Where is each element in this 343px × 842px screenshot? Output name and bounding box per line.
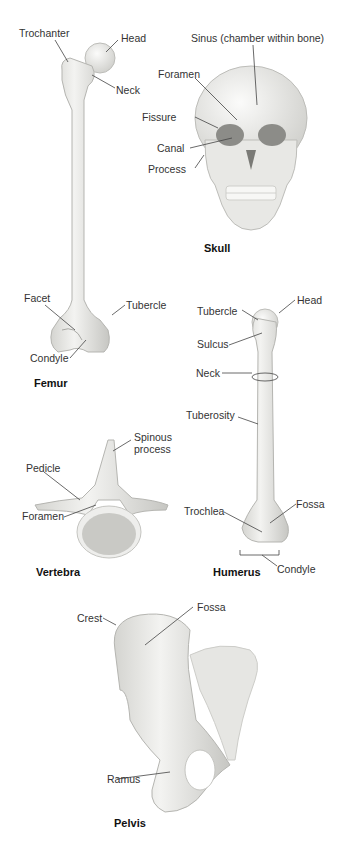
vertebra-label-spinous-line1: Spinous bbox=[134, 431, 172, 443]
vertebra-label-pedicle: Pedicle bbox=[26, 462, 60, 474]
skull-label-process: Process bbox=[148, 163, 186, 175]
femur-label-condyle: Condyle bbox=[30, 352, 69, 364]
skull-label-fissure: Fissure bbox=[142, 111, 176, 123]
vertebra-title: Vertebra bbox=[36, 566, 80, 578]
vertebra-label-spinous-line2: process bbox=[134, 443, 171, 455]
skull-title: Skull bbox=[204, 242, 230, 254]
humerus-label-tuberosity: Tuberosity bbox=[186, 409, 235, 421]
humerus-label-fossa: Fossa bbox=[296, 498, 325, 510]
humerus-label-sulcus: Sulcus bbox=[197, 338, 229, 350]
pelvis-label-ramus: Ramus bbox=[107, 773, 140, 785]
skull-label-foramen: Foramen bbox=[158, 68, 200, 80]
femur-label-neck: Neck bbox=[116, 84, 140, 96]
humerus-label-trochlea: Trochlea bbox=[184, 505, 224, 517]
skull-illustration bbox=[195, 66, 307, 230]
vertebra-label-spinous-process: Spinous process bbox=[134, 431, 172, 455]
humerus-label-neck: Neck bbox=[196, 367, 220, 379]
humerus-label-tubercle: Tubercle bbox=[197, 305, 237, 317]
pelvis-label-fossa: Fossa bbox=[197, 601, 226, 613]
vertebra-label-foramen: Foramen bbox=[22, 510, 64, 522]
skull-label-sinus: Sinus (chamber within bone) bbox=[191, 32, 324, 44]
skull-label-canal: Canal bbox=[157, 142, 184, 154]
femur-label-head: Head bbox=[121, 32, 146, 44]
bone-illustrations bbox=[0, 0, 343, 842]
humerus-label-head: Head bbox=[297, 294, 322, 306]
femur-label-tubercle: Tubercle bbox=[126, 299, 166, 311]
pelvis-label-crest: Crest bbox=[77, 612, 102, 624]
humerus-title: Humerus bbox=[213, 566, 261, 578]
femur-label-facet: Facet bbox=[24, 292, 50, 304]
humerus-label-condyle: Condyle bbox=[277, 563, 316, 575]
femur-label-trochanter: Trochanter bbox=[19, 27, 69, 39]
vertebra-illustration bbox=[35, 440, 168, 558]
femur-title: Femur bbox=[34, 377, 68, 389]
pelvis-title: Pelvis bbox=[114, 817, 146, 829]
humerus-illustration bbox=[240, 309, 288, 555]
femur-illustration bbox=[51, 43, 115, 352]
